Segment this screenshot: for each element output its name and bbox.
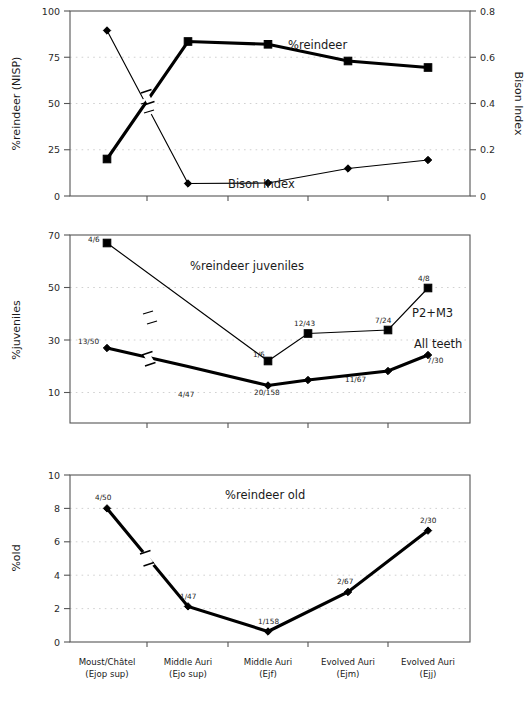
data-label: 1/47 [180,592,197,601]
plot-frame [70,11,470,196]
y2-tick-label: 0.4 [480,98,495,109]
x-category-label: Evolved Auri [401,657,455,667]
y-tick-label: 10 [48,470,60,481]
series-label-reindeer: %reindeer [288,38,347,52]
data-label: 4/50 [95,493,112,502]
y-tick-label: 10 [48,387,60,398]
mid-y-axis-title: %juveniles [10,300,23,360]
bot-panel-title: %reindeer old [225,488,305,502]
series-bison-index-line [107,31,428,184]
top-y2-axis-title: Bison Index [512,72,525,136]
y2-tick-label: 0 [480,191,486,202]
data-label: 1/6 [253,350,265,359]
panel-middle: 70 50 30 10 %juveniles %reindeer juvenil… [10,230,470,429]
series-label-p2m3: P2+M3 [412,306,453,320]
series-label-bison: Bison Index [228,177,295,191]
y2-tick-label: 0.2 [480,144,495,155]
data-label: 7/24 [375,316,392,325]
x-axis-category-labels: Moust/Châtel (Ejop sup) Middle Auri (Ejo… [79,657,455,679]
series-allteeth-markers [103,344,431,389]
y2-tick-label: 0.8 [480,6,495,17]
series-allteeth-line [107,348,428,386]
y-tick-label: 25 [48,144,60,155]
series-label-allteeth: All teeth [414,337,462,351]
x-category-sublabel: (Ejj) [420,669,437,679]
axis-break-old [140,551,154,567]
x-category-label: Middle Auri [244,657,292,667]
y2-tick-label: 0.6 [480,52,495,63]
y-tick-label: 4 [54,570,60,581]
mid-panel-title: %reindeer juveniles [190,259,304,273]
data-label: 13/50 [78,337,99,346]
bot-y-axis-title: %old [10,544,23,571]
figure-root: 100 75 50 25 0 0.8 0.6 0.4 0.2 0 %reinde… [0,0,529,726]
data-label: 4/47 [178,390,195,399]
x-category-label: Evolved Auri [321,657,375,667]
data-label: 1/158 [258,617,279,626]
series-bison-index-markers [103,27,431,187]
data-label: 12/43 [294,319,315,328]
y-tick-label: 8 [54,503,60,514]
x-category-sublabel: (Ejo sup) [169,669,207,679]
series-reindeer-markers [103,38,432,163]
x-category-label: Middle Auri [164,657,212,667]
three-panel-line-chart: 100 75 50 25 0 0.8 0.6 0.4 0.2 0 %reinde… [0,0,529,726]
y-tick-label: 6 [54,536,60,547]
series-reindeer-line [107,42,428,160]
y-tick-label: 70 [48,230,60,241]
x-category-sublabel: (Ejf) [259,669,277,679]
data-label: 20/158 [254,388,280,397]
y-tick-label: 75 [48,52,60,63]
data-label: 2/67 [337,577,354,586]
x-category-sublabel: (Ejm) [337,669,360,679]
data-label: 4/6 [88,235,100,244]
y-tick-label: 30 [48,335,60,346]
x-category-sublabel: (Ejop sup) [85,669,128,679]
data-label: 4/8 [418,274,430,283]
series-old-line [107,508,428,631]
data-label: 11/67 [345,375,366,384]
top-y-axis-title: %reindeer (NISP) [10,57,23,151]
y-tick-label: 0 [54,191,60,202]
y-tick-label: 50 [48,282,60,293]
y-tick-label: 100 [42,6,60,17]
y-tick-label: 0 [54,637,60,648]
panel-bottom: 10 8 6 4 2 0 %old %reindeer old 4/50 1/4… [10,470,470,648]
axis-break-p2m3 [143,311,157,325]
panel-top: 100 75 50 25 0 0.8 0.6 0.4 0.2 0 %reinde… [10,6,525,202]
data-label: 7/30 [427,356,444,365]
x-category-label: Moust/Châtel [79,657,136,667]
y-tick-label: 50 [48,98,60,109]
y-tick-label: 2 [54,603,60,614]
data-label: 2/30 [420,516,437,525]
